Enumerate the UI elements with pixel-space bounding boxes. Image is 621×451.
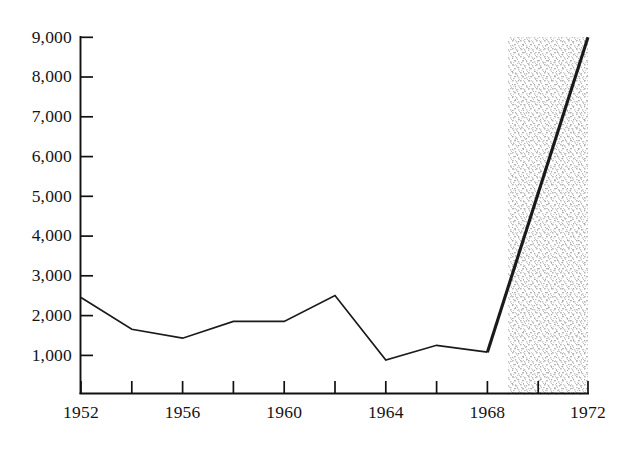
y-axis-ticks	[80, 37, 93, 355]
x-tick-label: 1964	[351, 404, 421, 422]
x-tick-label: 1956	[148, 404, 218, 422]
x-tick-label: 1968	[452, 404, 522, 422]
y-tick-label: 5,000	[0, 188, 72, 206]
chart-figure: 9,000 8,000 7,000 6,000 5,000 4,000 3,00…	[0, 0, 621, 451]
data-line-actual	[81, 296, 487, 361]
x-tick-label: 1960	[249, 404, 319, 422]
y-tick-label: 2,000	[0, 307, 72, 325]
y-tick-label: 9,000	[0, 29, 72, 47]
y-tick-label: 1,000	[0, 347, 72, 365]
y-tick-label: 4,000	[0, 227, 72, 245]
y-tick-label: 7,000	[0, 108, 72, 126]
x-tick-label: 1972	[553, 404, 621, 422]
y-tick-label: 6,000	[0, 148, 72, 166]
projection-band	[508, 37, 588, 395]
y-tick-label: 8,000	[0, 68, 72, 86]
plot-canvas	[0, 0, 621, 451]
x-tick-label: 1952	[46, 404, 116, 422]
y-tick-label: 3,000	[0, 267, 72, 285]
